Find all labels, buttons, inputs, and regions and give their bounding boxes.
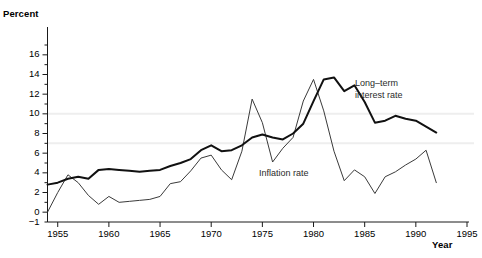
y-axis-tick-label: −1 — [14, 216, 40, 227]
series-label-interest-rate-line2: interest rate — [355, 90, 403, 102]
x-axis-tick-label: 1985 — [345, 228, 385, 239]
series-label-inflation-rate: Inflation rate — [259, 168, 309, 180]
y-axis-tick-label: 14 — [14, 68, 40, 79]
y-axis-tick-label: 2 — [14, 186, 40, 197]
x-axis-tick-label: 1980 — [294, 228, 334, 239]
y-axis-tick-label: 0 — [14, 206, 40, 217]
y-axis-tick-label: 6 — [14, 147, 40, 158]
series-label-interest-rate-line1: Long–term — [355, 78, 403, 90]
x-axis-tick-label: 1955 — [38, 228, 78, 239]
x-axis-tick-label: 1990 — [396, 228, 436, 239]
y-axis-tick-label: 4 — [14, 166, 40, 177]
y-axis-tick-label: 16 — [14, 48, 40, 59]
y-axis-tick-label: 8 — [14, 127, 40, 138]
y-axis-tick-label: 12 — [14, 88, 40, 99]
y-axis-tick-label: 10 — [14, 107, 40, 118]
x-axis-tick-label: 1975 — [242, 228, 282, 239]
x-axis-tick-label: 1960 — [89, 228, 129, 239]
x-axis-tick-label: 1995 — [447, 228, 482, 239]
x-axis-tick-label: 1970 — [191, 228, 231, 239]
series-label-interest-rate: Long–term interest rate — [355, 78, 403, 101]
x-axis-tick-label: 1965 — [140, 228, 180, 239]
